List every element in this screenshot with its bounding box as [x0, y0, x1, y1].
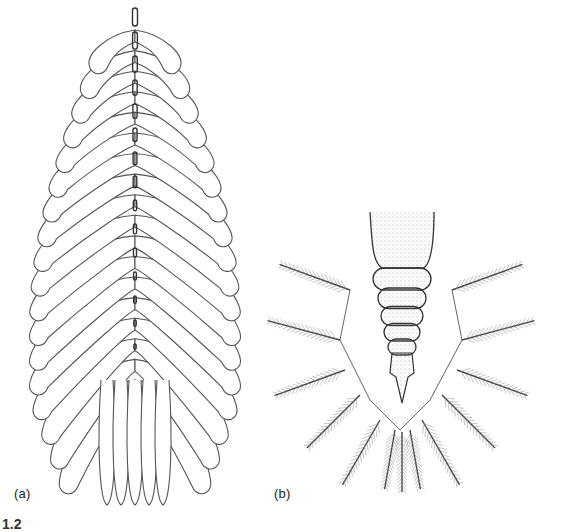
- body-segment: [373, 268, 431, 290]
- plumose-appendage: [462, 317, 536, 343]
- body-trunk: [370, 212, 434, 268]
- plumose-appendage: [278, 260, 350, 291]
- plumose-appendage: [339, 420, 380, 487]
- plumose-appendage: [442, 395, 498, 451]
- plumose-appendage: [457, 368, 529, 399]
- plumose-appendage: [304, 395, 360, 451]
- figure-caption-fragment: 1.2: [2, 516, 21, 532]
- body-terminal-spine: [390, 353, 414, 403]
- body-segment: [378, 288, 426, 309]
- plumose-appendage: [452, 260, 524, 291]
- plumose-appendage: [273, 368, 345, 399]
- body-segment: [381, 307, 423, 326]
- plumose-appendage: [422, 420, 463, 487]
- plumose-appendage: [406, 430, 425, 491]
- panel-label-a: (a): [14, 486, 31, 501]
- plumose-appendage: [266, 317, 340, 343]
- plumose-appendage: [380, 430, 399, 491]
- panel-label-b: (b): [274, 486, 291, 501]
